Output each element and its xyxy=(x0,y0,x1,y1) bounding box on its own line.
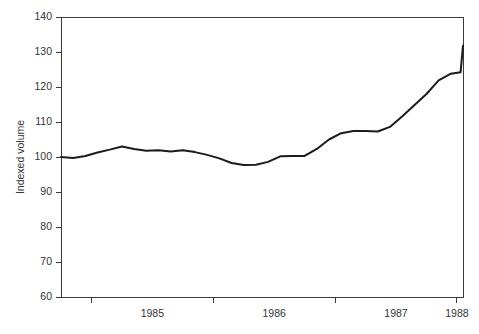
series-group xyxy=(61,46,463,165)
x-tick-label: 1986 xyxy=(263,307,287,319)
y-axis: 60708090100110120130140 xyxy=(34,10,61,302)
y-tick-label: 120 xyxy=(34,80,52,92)
data-series-line xyxy=(61,46,463,165)
line-chart: 60708090100110120130140 1985198619871988… xyxy=(0,0,479,334)
x-axis: 1985198619871988 xyxy=(91,297,468,319)
y-tick-label: 90 xyxy=(40,185,52,197)
plot-frame xyxy=(61,17,463,297)
y-tick-label: 100 xyxy=(34,150,52,162)
y-axis-title: Indexed volume xyxy=(14,120,26,194)
y-tick-label: 80 xyxy=(40,220,52,232)
x-tick-label: 1988 xyxy=(445,307,469,319)
chart-container: 60708090100110120130140 1985198619871988… xyxy=(0,0,479,334)
y-tick-label: 60 xyxy=(40,290,52,302)
x-tick-label: 1987 xyxy=(384,307,408,319)
y-tick-label: 130 xyxy=(34,45,52,57)
y-tick-label: 140 xyxy=(34,10,52,22)
y-tick-label: 70 xyxy=(40,255,52,267)
y-tick-label: 110 xyxy=(35,115,52,127)
x-tick-label: 1985 xyxy=(141,307,165,319)
